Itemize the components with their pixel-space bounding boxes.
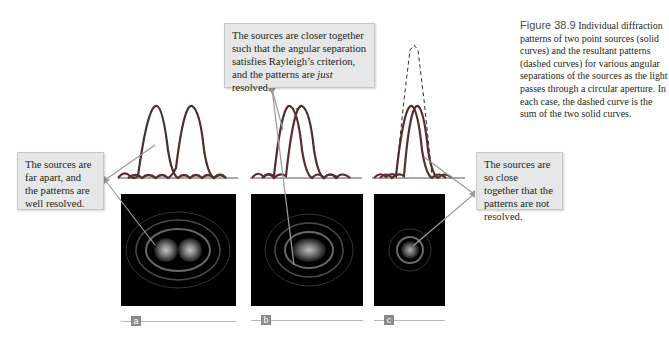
callout-b-emphasis: just: [317, 69, 332, 80]
callout-b-text-end: resolved.: [232, 82, 271, 93]
solid-curves-b: [252, 106, 350, 178]
callout-b: The sources are closer together such tha…: [224, 23, 375, 88]
solid-curves-a: [118, 106, 226, 178]
callout-a-text: The sources are far apart, and the patte…: [25, 159, 91, 209]
callout-a: The sources are far apart, and the patte…: [17, 152, 104, 210]
solid-curves-c: [374, 106, 452, 178]
leader-lines: [105, 89, 474, 265]
callout-c: The sources are so close together that t…: [476, 152, 563, 210]
callout-b-text-start: The sources are closer together such tha…: [232, 30, 366, 80]
